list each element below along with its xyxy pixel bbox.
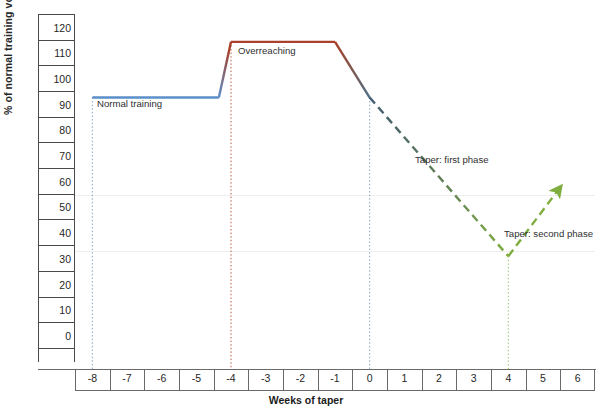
chart-canvas: % of normal training volume 120110100908… — [0, 0, 612, 419]
y-tick-line — [38, 14, 75, 15]
y-tick-label: 10 — [38, 304, 71, 316]
y-tick-line — [38, 91, 75, 92]
y-tick-label: 100 — [38, 73, 71, 85]
annotation-overreaching: Overreaching — [238, 45, 296, 56]
plot-area — [75, 14, 595, 362]
y-tick-label: 60 — [38, 176, 71, 188]
y-tick-label: 50 — [38, 201, 71, 213]
x-tick-label: -6 — [144, 372, 180, 384]
y-tick-label: 0 — [38, 330, 71, 342]
y-tick-line — [38, 219, 75, 220]
x-tick-label: -5 — [178, 372, 214, 384]
y-tick-line — [38, 322, 75, 323]
y-tick-line — [38, 271, 75, 272]
annotation-normal-training: Normal training — [97, 98, 162, 109]
x-tick-label: 0 — [352, 372, 388, 384]
x-tick-label: 5 — [525, 372, 561, 384]
y-tick-line — [38, 194, 75, 195]
x-tick-label: 1 — [386, 372, 422, 384]
y-tick-line — [38, 117, 75, 118]
x-tick-label: -4 — [213, 372, 249, 384]
y-tick-line — [38, 348, 75, 349]
y-tick-label: 30 — [38, 253, 71, 265]
x-tick-label: -7 — [109, 372, 145, 384]
y-tick-label: 20 — [38, 279, 71, 291]
y-tick-label: 110 — [38, 47, 71, 59]
y-tick-label: 90 — [38, 99, 71, 111]
y-tick-line — [38, 65, 75, 66]
x-tick-label: 6 — [560, 372, 596, 384]
gridline — [75, 195, 595, 196]
x-tick-label: 4 — [490, 372, 526, 384]
x-tick-label: -8 — [74, 372, 110, 384]
x-tick-label: 2 — [421, 372, 457, 384]
y-tick-line — [38, 168, 75, 169]
y-tick-label: 40 — [38, 227, 71, 239]
x-tick-label: -2 — [282, 372, 318, 384]
y-axis-title: % of normal training volume — [2, 0, 14, 115]
y-tick-label: 120 — [38, 22, 71, 34]
y-tick-line — [38, 40, 75, 41]
annotation-taper-first: Taper: first phase — [415, 154, 489, 165]
y-tick-line — [38, 245, 75, 246]
annotation-taper-second: Taper: second phase — [504, 228, 593, 239]
x-tick-label: -1 — [317, 372, 353, 384]
gridline — [75, 251, 595, 252]
y-tick-label: 70 — [38, 150, 71, 162]
x-tick-label: -3 — [248, 372, 284, 384]
x-tick-label: 3 — [456, 372, 492, 384]
x-axis-title: Weeks of taper — [0, 394, 612, 406]
y-tick-label: 80 — [38, 124, 71, 136]
y-tick-line — [38, 297, 75, 298]
y-tick-line — [38, 142, 75, 143]
